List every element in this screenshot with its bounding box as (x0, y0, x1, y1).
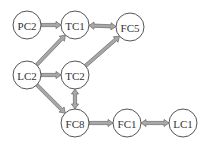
node-label: FC1 (118, 118, 137, 130)
node-fc1: FC1 (113, 109, 141, 137)
node-tc1: TC1 (61, 11, 89, 39)
node-lc1: LC1 (169, 109, 197, 137)
arrow-tc2-fc5 (85, 36, 120, 67)
bidirectional-arrow-tc1-fc5 (89, 22, 116, 30)
node-label: PC2 (18, 20, 37, 32)
node-label: TC2 (65, 70, 85, 82)
node-label: FC8 (66, 118, 85, 130)
node-fc5: FC5 (116, 13, 144, 41)
bidirectional-arrow-fc1-lc1 (141, 119, 169, 126)
node-tc2: TC2 (61, 61, 89, 89)
arrow-lc2-tc2 (41, 71, 61, 78)
arrow-fc8-fc1 (89, 119, 113, 126)
node-fc8: FC8 (61, 109, 89, 137)
node-label: TC1 (65, 20, 85, 32)
arrow-pc2-tc1 (41, 21, 61, 28)
nodes-layer: PC2TC1FC5LC2TC2FC8FC1LC1 (13, 11, 197, 137)
node-label: LC1 (173, 118, 193, 130)
node-label: FC5 (121, 22, 140, 34)
bidirectional-arrow-tc2-fc8 (71, 89, 78, 109)
flow-diagram: PC2TC1FC5LC2TC2FC8FC1LC1 (0, 0, 205, 148)
node-lc2: LC2 (13, 61, 41, 89)
node-label: LC2 (17, 70, 37, 82)
node-pc2: PC2 (13, 11, 41, 39)
arrow-lc2-fc8 (36, 84, 65, 113)
edges-layer (36, 21, 169, 126)
arrow-lc2-tc1 (36, 35, 66, 66)
